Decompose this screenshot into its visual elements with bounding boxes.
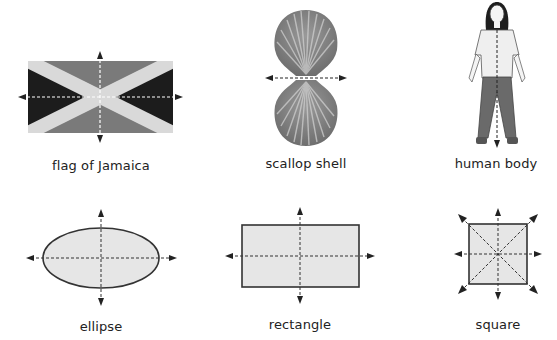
label-square: square	[408, 317, 557, 332]
label-ellipse: ellipse	[11, 319, 191, 334]
ellipse-figure	[26, 209, 177, 306]
label-scallop-shell: scallop shell	[216, 156, 396, 171]
rectangle-figure	[225, 207, 375, 304]
label-flag-of-jamaica: flag of Jamaica	[11, 158, 191, 173]
square-figure	[454, 208, 542, 300]
label-human-body: human body	[406, 156, 557, 171]
flag-of-jamaica-figure	[18, 51, 183, 143]
label-rectangle: rectangle	[210, 317, 390, 332]
scallop-shell-figure	[265, 10, 347, 146]
human-body-figure	[469, 2, 525, 148]
